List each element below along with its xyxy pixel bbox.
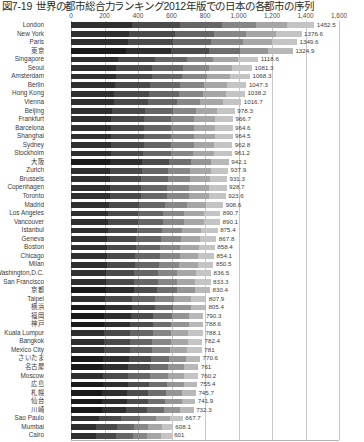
- value-label: 667.7: [183, 414, 201, 423]
- chart-row: Beijing978.3: [71, 107, 339, 116]
- bar-segment: [193, 151, 214, 157]
- bar-segment: [141, 176, 168, 182]
- bar-segment: [128, 39, 173, 45]
- bar-segment: [171, 134, 194, 140]
- category-label: Singapore: [0, 55, 44, 64]
- bar: [71, 382, 198, 388]
- bar-segment: [71, 347, 104, 353]
- bar-segment: [184, 364, 198, 370]
- category-label: Geneva: [0, 235, 44, 244]
- value-label: 964.6: [233, 124, 251, 133]
- bar-segment: [71, 270, 106, 276]
- category-label: Seoul: [0, 64, 44, 73]
- chart-row: 名古屋761: [71, 363, 339, 372]
- bar-segment: [148, 424, 161, 430]
- bar-segment: [117, 424, 134, 430]
- value-label: 770.6: [200, 354, 218, 363]
- category-label: Istanbul: [0, 226, 44, 235]
- bar-segment: [111, 151, 143, 157]
- bar-segment: [204, 219, 220, 225]
- bar: [71, 270, 211, 276]
- bar-segment: [103, 382, 128, 388]
- bar-segment: [106, 270, 134, 276]
- bar-segment: [161, 433, 172, 439]
- bar-segment: [116, 433, 133, 439]
- value-label: 805.4: [206, 303, 224, 312]
- chart-row: Milan850.5: [71, 260, 339, 269]
- bar-segment: [204, 82, 227, 88]
- bar-segment: [129, 356, 151, 362]
- bar: [71, 236, 216, 242]
- bar-segment: [103, 364, 128, 370]
- chart-row: Istanbul875.4: [71, 226, 339, 235]
- bar-segment: [162, 424, 173, 430]
- bar-segment: [287, 22, 314, 28]
- bar-segment: [137, 228, 162, 234]
- bar-segment: [71, 202, 109, 208]
- bar-segment: [71, 364, 103, 370]
- bar: [71, 390, 196, 396]
- bar-segment: [71, 356, 103, 362]
- category-label: Vienna: [0, 98, 44, 107]
- chart-row: Singapore1118.6: [71, 55, 339, 64]
- bar-segment: [103, 373, 128, 379]
- bar-segment: [110, 185, 141, 191]
- bar-segment: [171, 48, 209, 54]
- value-label: 830.4: [210, 286, 228, 295]
- bar-segment: [106, 279, 134, 285]
- bar-segment: [182, 74, 207, 80]
- bar-segment: [168, 168, 190, 174]
- chart-row: Geneva867.8: [71, 235, 339, 244]
- chart-row: Stockholm961.2: [71, 149, 339, 158]
- value-label: 836.5: [211, 269, 229, 278]
- bar: [71, 399, 195, 405]
- bar-segment: [102, 390, 127, 396]
- bar-segment: [105, 305, 132, 311]
- value-label: 961.2: [232, 149, 250, 158]
- bar-segment: [150, 373, 168, 379]
- value-label: 833.3: [211, 278, 229, 287]
- bar-segment: [268, 48, 292, 54]
- category-label: Washington,D.C.: [0, 269, 44, 278]
- bar-segment: [71, 339, 104, 345]
- value-label: 760.2: [198, 372, 216, 381]
- bar-segment: [164, 407, 180, 413]
- bar-segment: [71, 330, 104, 336]
- bar-segment: [200, 99, 222, 105]
- bar-segment: [147, 407, 164, 413]
- bar-segment: [167, 382, 183, 388]
- bar-segment: [155, 305, 174, 311]
- bar-segment: [71, 228, 108, 234]
- bar-segment: [71, 185, 110, 191]
- bar-segment: [129, 31, 175, 37]
- bar-segment: [132, 22, 181, 28]
- bar-segment: [152, 74, 182, 80]
- bar: [71, 424, 173, 430]
- bar-segment: [157, 287, 176, 293]
- bar-segment: [140, 416, 156, 422]
- chart-row: Shanghai964.5: [71, 132, 339, 141]
- bar-segment: [184, 211, 203, 217]
- value-label: 1081.3: [252, 64, 273, 73]
- bar-segment: [177, 99, 201, 105]
- bar-segment: [194, 142, 215, 148]
- bar-segment: [171, 142, 194, 148]
- bar: [71, 322, 203, 328]
- bar: [71, 134, 233, 140]
- bar: [71, 99, 241, 105]
- value-label: 890.7: [220, 209, 238, 218]
- bar-segment: [169, 356, 186, 362]
- x-tick-label: 0: [69, 10, 73, 21]
- bar-segment: [167, 193, 189, 199]
- bar-segment: [147, 433, 160, 439]
- bar-segment: [110, 159, 142, 165]
- bar-segment: [71, 31, 129, 37]
- value-label: 850.5: [213, 260, 231, 269]
- bar-segment: [130, 347, 152, 353]
- bar-segment: [96, 424, 116, 430]
- bar-segment: [134, 287, 158, 293]
- bar-segment: [71, 91, 114, 97]
- bar-segment: [194, 116, 215, 122]
- category-label: Hong Kong: [0, 89, 44, 98]
- bar-segment: [71, 407, 102, 413]
